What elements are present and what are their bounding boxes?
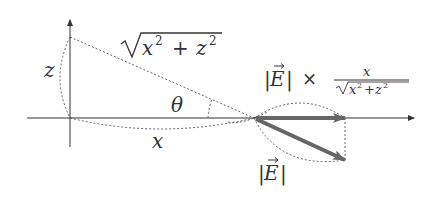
svg-text:x: x [363, 64, 371, 79]
svg-text:×: × [302, 68, 317, 89]
svg-text:2: 2 [155, 34, 163, 48]
x-brace-arc [70, 118, 254, 129]
projection-arc-top [254, 103, 345, 118]
svg-text:z: z [374, 82, 382, 97]
svg-text:E: E [269, 67, 285, 91]
labels: z x θ x 2 + z 2 | E | × x x 2 + z 2 [43, 33, 409, 186]
svg-text:x: x [142, 36, 153, 60]
svg-text:2: 2 [383, 81, 388, 90]
hypotenuse-label: x 2 + z 2 [121, 33, 222, 60]
svg-text:+: + [364, 82, 375, 97]
z-brace-arc [60, 37, 70, 118]
svg-text:x: x [349, 82, 357, 97]
z-label: z [43, 58, 55, 82]
svg-text:|: | [280, 161, 287, 186]
svg-text:2: 2 [357, 81, 362, 90]
hypotenuse-line [70, 37, 254, 118]
theta-arc [208, 99, 212, 118]
svg-text:E: E [263, 161, 279, 185]
field-magnitude-label: | E | [258, 158, 287, 187]
projection-label: | E | × x x 2 + z 2 [264, 64, 409, 98]
field-vector [256, 119, 345, 160]
x-label: x [152, 129, 163, 153]
svg-text:z: z [195, 36, 207, 60]
theta-label: θ [171, 93, 183, 117]
svg-text:+: + [172, 36, 189, 60]
svg-text:2: 2 [209, 34, 217, 48]
vectors [256, 118, 345, 160]
svg-text:|: | [286, 67, 293, 92]
field-projection-diagram: z x θ x 2 + z 2 | E | × x x 2 + z 2 [0, 0, 442, 197]
